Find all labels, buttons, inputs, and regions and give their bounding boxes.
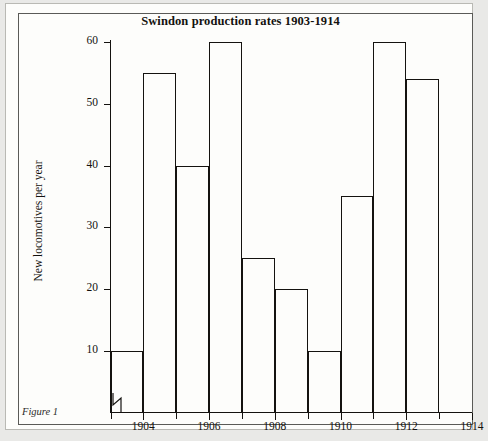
bar-1906 <box>209 42 242 413</box>
x-tick-1911 <box>373 413 374 419</box>
y-tick-30 <box>104 227 111 228</box>
x-tick-1914 <box>472 413 473 420</box>
x-tick-1913 <box>439 413 440 419</box>
x-tick-1906 <box>209 413 210 420</box>
y-tick-label-20: 20 <box>64 281 98 293</box>
y-tick-50 <box>104 104 111 105</box>
x-tick-label-1910: 1910 <box>321 420 361 432</box>
x-tick-label-1908: 1908 <box>255 420 295 432</box>
x-tick-1908 <box>275 413 276 420</box>
bar-1905 <box>176 166 209 413</box>
x-tick-1905 <box>176 413 177 419</box>
bar-1904 <box>143 73 176 413</box>
bar-1912 <box>406 79 439 412</box>
x-tick-1903 <box>111 413 112 419</box>
y-tick-20 <box>104 289 111 290</box>
y-tick-60 <box>104 42 111 43</box>
y-tick-40 <box>104 166 111 167</box>
x-tick-1910 <box>341 413 342 420</box>
x-tick-label-1906: 1906 <box>189 420 229 432</box>
figure-caption: Figure 1 <box>22 406 58 417</box>
x-tick-1907 <box>242 413 243 419</box>
bar-1907 <box>242 258 275 412</box>
bar-1903 <box>111 351 144 413</box>
x-tick-1909 <box>308 413 309 419</box>
y-tick-label-40: 40 <box>64 158 98 170</box>
bar-1908 <box>275 289 308 413</box>
x-tick-1912 <box>406 413 407 420</box>
x-tick-1904 <box>143 413 144 420</box>
x-tick-label-1914: 1914 <box>452 420 488 432</box>
bar-1909 <box>308 351 341 413</box>
x-tick-label-1912: 1912 <box>386 420 426 432</box>
y-tick-label-50: 50 <box>64 96 98 108</box>
y-tick-label-30: 30 <box>64 219 98 231</box>
x-tick-label-1904: 1904 <box>123 420 163 432</box>
bar-1910 <box>341 196 374 412</box>
y-tick-label-10: 10 <box>64 343 98 355</box>
bar-1911 <box>373 42 406 413</box>
y-tick-label-60: 60 <box>64 34 98 46</box>
y-axis-title: New locomotives per year <box>32 121 44 321</box>
